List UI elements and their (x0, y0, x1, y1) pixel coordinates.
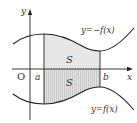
area-diagram: y x O a b S S y=−f(x) y=f(x) (0, 0, 137, 123)
upper-area-label: S (66, 54, 73, 65)
upper-curve-label: y=−f(x) (80, 25, 115, 35)
y-axis-arrow-icon (28, 9, 32, 15)
a-label: a (35, 72, 40, 82)
x-axis-label: x (127, 72, 132, 82)
lower-curve-label: y=f(x) (90, 104, 118, 114)
origin-label: O (17, 71, 25, 82)
b-label: b (103, 72, 109, 82)
y-axis-label: y (20, 6, 27, 16)
lower-area-label: S (66, 77, 73, 88)
diagram-canvas: y x O a b S S y=−f(x) y=f(x) (0, 0, 137, 123)
x-axis-arrow-icon (127, 67, 133, 71)
